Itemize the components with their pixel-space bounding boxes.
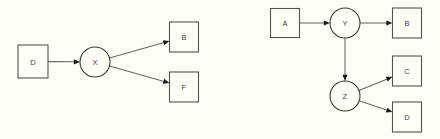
edge-line [359, 101, 387, 110]
arrowhead [386, 77, 393, 82]
arrowhead [342, 75, 347, 81]
nodes-layer: DXBFAYBZCD [18, 8, 422, 132]
arrowhead [386, 20, 392, 25]
arrowhead [74, 59, 80, 64]
edge-y-to-b [360, 20, 393, 25]
node-box-d[interactable]: D [393, 102, 422, 132]
node-box-a[interactable]: A [271, 9, 300, 38]
node-label: A [282, 19, 287, 28]
node-label: B [404, 19, 409, 28]
edge-line [359, 79, 387, 90]
edge-x-to-f [109, 66, 169, 84]
arrowhead [324, 20, 330, 25]
edge-z-to-d [359, 101, 392, 113]
edge-a-to-y [300, 20, 331, 25]
node-box-f[interactable]: F [170, 72, 199, 102]
diagram-canvas: DXBFAYBZCD [0, 0, 440, 139]
node-box-b[interactable]: B [170, 22, 199, 52]
edge-line [109, 43, 164, 58]
node-circle-z[interactable]: Z [330, 81, 360, 111]
node-label: Z [343, 92, 348, 101]
dag-diagram-surface: DXBFAYBZCD [0, 0, 440, 139]
node-label: D [404, 113, 410, 122]
node-label: Y [342, 19, 347, 28]
node-circle-x[interactable]: X [80, 47, 110, 77]
edge-x-to-b [109, 40, 169, 58]
node-label: F [182, 83, 187, 92]
edge-z-to-c [359, 77, 393, 91]
node-label: D [30, 58, 36, 67]
node-circle-y[interactable]: Y [330, 8, 360, 38]
arrowhead [163, 79, 170, 84]
edge-y-to-z [342, 38, 347, 81]
node-label: B [181, 33, 186, 42]
edge-d-to-x [48, 59, 80, 64]
arrowhead [386, 108, 393, 113]
arrowhead [163, 40, 170, 45]
node-label: X [92, 58, 97, 67]
node-label: C [404, 67, 410, 76]
node-box-d[interactable]: D [18, 45, 48, 78]
edge-line [109, 66, 164, 81]
node-box-b[interactable]: B [393, 8, 422, 38]
node-box-c[interactable]: C [393, 56, 422, 86]
